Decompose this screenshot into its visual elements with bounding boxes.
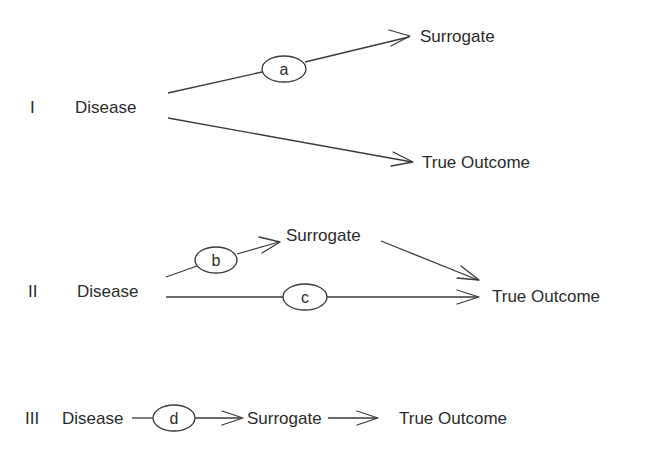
panel-1-surrogate-node: Surrogate — [420, 27, 495, 46]
panel-1-disease-node: Disease — [75, 98, 136, 117]
panel-2-numeral: II — [28, 282, 37, 301]
arrowhead-icon — [389, 30, 410, 46]
panel-1-outcome-node: True Outcome — [422, 153, 530, 172]
edge-segment — [168, 72, 262, 93]
panel-3-numeral: III — [25, 409, 39, 428]
panel-2-outcome-node: True Outcome — [492, 287, 600, 306]
edge-segment — [237, 242, 279, 254]
panel-3-surrogate-node: Surrogate — [247, 409, 322, 428]
panel-2: II Disease Surrogate True Outcome b c — [28, 226, 600, 310]
panel-3: III Disease Surrogate True Outcome d — [25, 405, 507, 431]
panel-2-surrogate-node: Surrogate — [286, 226, 361, 245]
path-label-c: c — [301, 289, 309, 306]
panel-3-edge-disease-surrogate: d — [132, 405, 243, 431]
edge-segment — [381, 241, 478, 280]
panel-2-edge-surrogate-outcome — [381, 241, 479, 280]
path-label-b: b — [212, 252, 221, 269]
panel-2-disease-node: Disease — [77, 282, 138, 301]
edge-segment — [166, 266, 197, 277]
panel-1-numeral: I — [30, 98, 35, 117]
panel-1-edge-disease-outcome — [168, 118, 413, 166]
path-label-a: a — [280, 61, 289, 78]
surrogate-endpoint-diagram: I Disease Surrogate True Outcome a II Di… — [0, 0, 651, 452]
panel-1: I Disease Surrogate True Outcome a — [30, 27, 530, 172]
panel-2-edge-disease-surrogate: b — [166, 237, 280, 277]
edge-segment — [305, 37, 409, 62]
panel-2-edge-disease-outcome: c — [166, 284, 479, 310]
panel-1-edge-disease-surrogate: a — [168, 30, 410, 93]
path-label-d: d — [170, 410, 179, 427]
edge-segment — [168, 118, 412, 162]
panel-3-edge-surrogate-outcome — [328, 411, 378, 425]
panel-3-disease-node: Disease — [62, 409, 123, 428]
panel-3-outcome-node: True Outcome — [399, 409, 507, 428]
